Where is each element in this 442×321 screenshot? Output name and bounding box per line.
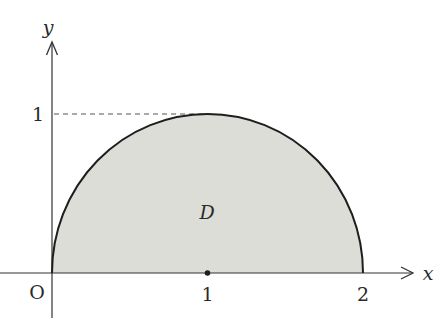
y-axis-label: y <box>42 16 54 38</box>
point-x1-dot <box>205 270 211 276</box>
origin-label: O <box>29 281 45 303</box>
x-tick-label-2: 2 <box>357 283 369 305</box>
x-tick-label-1: 1 <box>201 283 213 305</box>
y-tick-label-1: 1 <box>32 103 44 125</box>
region-diagram: y x O 1 1 2 D <box>0 0 442 321</box>
x-axis-label: x <box>423 262 434 284</box>
region-label: D <box>198 201 214 223</box>
region-d-fill <box>52 114 363 273</box>
